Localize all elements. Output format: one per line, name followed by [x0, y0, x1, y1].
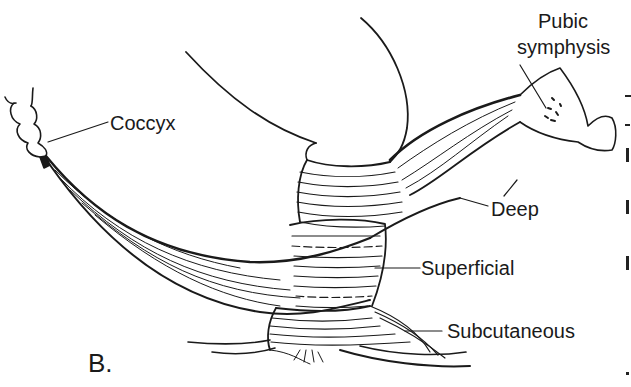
pubic-bone: [520, 68, 616, 151]
deep-leader: [460, 198, 488, 206]
coccyx-bone: [5, 88, 50, 168]
anatomy-diagram: Pubic symphysis Coccyx Deep Superficial …: [0, 0, 631, 387]
label-coccyx: Coccyx: [110, 112, 176, 134]
label-pubic-line1: Pubic: [538, 10, 588, 32]
edge-fragment: [626, 148, 629, 162]
leader-lines: [48, 65, 546, 331]
edge-fragment: [626, 200, 629, 214]
label-pubic-line2: symphysis: [517, 36, 610, 58]
label-superficial: Superficial: [421, 257, 514, 279]
coccyx-leader: [48, 122, 108, 142]
superficial-sphincter-ring: [290, 220, 386, 308]
edge-fragment: [625, 124, 630, 126]
label-deep: Deep: [491, 198, 539, 220]
coccyx-pubis-sling: [46, 156, 370, 314]
label-subcutaneous: Subcutaneous: [447, 320, 575, 342]
edge-fragment: [626, 372, 629, 375]
deep-leader-upper: [504, 180, 517, 196]
pubic-symphysis-leader: [520, 65, 546, 108]
rectum-outline: [186, 18, 408, 162]
edge-fragment: [625, 95, 631, 97]
panel-letter: B.: [88, 348, 113, 379]
edge-fragment: [626, 256, 629, 270]
deep-sphincter-ring: [297, 160, 402, 227]
